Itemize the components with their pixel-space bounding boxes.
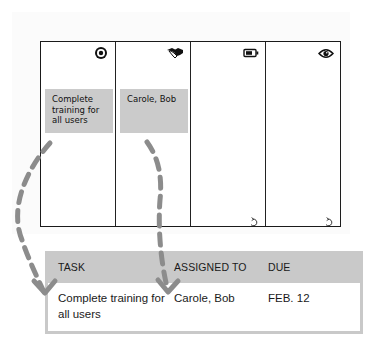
table-header-row: TASK ASSIGNED TO DUE [48,251,360,283]
column-header-task: TASK [48,261,170,273]
eye-icon [318,46,334,60]
task-table: TASK ASSIGNED TO DUE Complete training f… [45,251,363,334]
handshake-icon [166,46,184,60]
battery-icon [243,46,259,60]
task-board: Complete training for all users Carole, … [40,41,341,227]
board-column-progress [191,42,266,226]
target-icon [93,46,109,60]
cell-due: FEB. 12 [264,290,344,306]
board-column-goal: Complete training for all users [41,42,116,226]
task-card[interactable]: Complete training for all users [45,89,113,133]
board-column-collaborators: Carole, Bob [116,42,191,226]
column-header-due: DUE [264,261,344,273]
table-row[interactable]: Complete training for all users Carole, … [48,283,360,331]
column-header-assigned-to: ASSIGNED TO [170,261,264,273]
undo-arrow-icon[interactable] [249,212,259,222]
undo-arrow-icon[interactable] [324,212,334,222]
cell-task: Complete training for all users [48,290,170,322]
cell-assigned-to: Carole, Bob [170,290,264,306]
assignee-card[interactable]: Carole, Bob [120,89,188,133]
board-column-review [266,42,340,226]
